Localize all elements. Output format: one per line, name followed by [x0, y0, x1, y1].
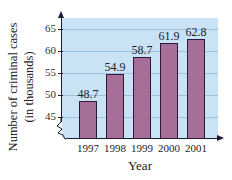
bar-value-label: 61.9 — [154, 30, 184, 42]
ytick-label: 65 — [36, 23, 56, 34]
y-axis-title: Number of criminal cases (in thousands) — [5, 17, 39, 157]
bar-1999 — [133, 57, 151, 139]
bar-value-label: 54.9 — [100, 61, 130, 73]
xtick-label: 1998 — [100, 143, 130, 154]
bar-1998 — [106, 74, 124, 139]
ytick-label: 60 — [36, 45, 56, 56]
y-axis-title-line-1: Number of criminal cases — [5, 17, 21, 157]
y-axis-title-line-2: (in thousands) — [21, 17, 37, 157]
bar-value-label: 48.7 — [73, 88, 103, 100]
bar-value-label: 62.8 — [181, 26, 211, 38]
bar-value-label: 58.7 — [127, 44, 157, 56]
bar-2000 — [160, 43, 178, 139]
ytick-label: 45 — [36, 111, 56, 122]
bar-1997 — [79, 101, 97, 139]
bar-2001 — [187, 39, 205, 139]
xtick-label: 1997 — [73, 143, 103, 154]
y-axis-arrow-icon — [58, 11, 64, 18]
y-axis — [61, 16, 62, 122]
xtick-label: 1999 — [127, 143, 157, 154]
xtick-label: 2000 — [154, 143, 184, 154]
ytick-label: 50 — [36, 89, 56, 100]
ytick-label: 55 — [36, 67, 56, 78]
x-axis-title: Year — [120, 158, 160, 174]
x-axis-arrow-icon — [217, 135, 224, 141]
xtick-label: 2001 — [181, 143, 211, 154]
